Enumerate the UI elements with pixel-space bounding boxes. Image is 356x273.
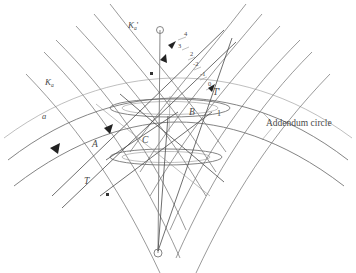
label-point-t: T	[84, 177, 89, 187]
gear-geometry-diagram: .ln{fill:none;stroke:#6e6e6e;stroke-widt…	[0, 0, 356, 273]
vertical-axis	[158, 30, 170, 253]
addendum-arcs-left	[26, 4, 226, 273]
tick-label: 1	[217, 110, 221, 118]
label-k-a-prime: Ka'	[128, 21, 138, 31]
label-addendum-circle: Addendum circle	[266, 119, 332, 129]
tick-label: 3	[178, 43, 181, 50]
tick-label: 0	[208, 81, 211, 88]
label-point-c: C	[142, 136, 148, 146]
tick-label: -1	[200, 71, 205, 78]
label-point-a: A	[92, 140, 98, 150]
tick-label: -2	[193, 61, 198, 68]
label-point-t-prime: T'	[213, 88, 220, 98]
tick-label: 2	[190, 51, 193, 58]
label-a-left: a	[42, 112, 46, 121]
label-point-b: B	[189, 108, 195, 118]
label-k-a: Ka	[45, 78, 54, 88]
pitch-arcs	[4, 78, 352, 186]
tick-label: 4	[184, 31, 187, 38]
